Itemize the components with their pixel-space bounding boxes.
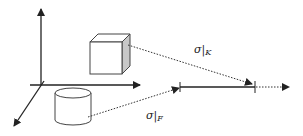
mapping-k-line bbox=[128, 45, 252, 84]
subscript-f: F bbox=[157, 114, 163, 123]
sigma-f-label: σ|F bbox=[146, 110, 163, 123]
sigma-symbol: σ bbox=[146, 109, 154, 122]
mapping-f-line bbox=[88, 88, 179, 117]
target-line bbox=[180, 81, 289, 93]
depth-axis bbox=[14, 81, 44, 126]
sigma-symbol: σ bbox=[194, 43, 202, 56]
cube-icon bbox=[90, 34, 130, 74]
cylinder-icon bbox=[55, 88, 91, 125]
subscript-k: K bbox=[205, 48, 211, 57]
diagram-canvas: σ|K σ|F bbox=[0, 0, 303, 136]
sigma-k-label: σ|K bbox=[194, 44, 211, 57]
